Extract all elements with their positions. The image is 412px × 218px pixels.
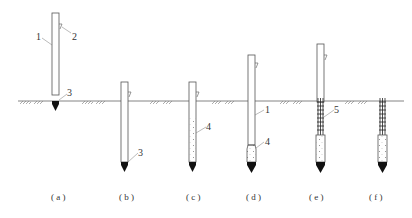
concrete-bulb bbox=[378, 135, 387, 162]
leader-3 bbox=[128, 153, 138, 162]
pile-tip bbox=[247, 162, 256, 173]
label-4: 4 bbox=[265, 136, 270, 147]
hook-icon bbox=[196, 92, 199, 97]
rebar-cage bbox=[317, 98, 324, 135]
hook-icon bbox=[324, 55, 327, 60]
leader-3 bbox=[59, 94, 67, 100]
casing bbox=[248, 55, 255, 145]
hook-icon bbox=[255, 63, 258, 68]
casing bbox=[317, 44, 324, 102]
stage-f bbox=[378, 98, 387, 173]
leader-2 bbox=[62, 27, 71, 33]
caption-d: ( d ) bbox=[246, 192, 261, 202]
pile-tip bbox=[316, 162, 325, 173]
concrete-bulb bbox=[316, 135, 325, 162]
pile-tip bbox=[378, 162, 387, 173]
pile-tip bbox=[121, 162, 128, 172]
label-3: 3 bbox=[138, 147, 143, 158]
leader-4 bbox=[256, 142, 264, 148]
hook-icon bbox=[59, 24, 62, 29]
label-4: 4 bbox=[206, 121, 211, 132]
stage-e: 5 bbox=[316, 44, 339, 173]
stage-c: 4 bbox=[189, 82, 211, 172]
concrete-bulb bbox=[247, 145, 256, 162]
stage-b: 3 bbox=[121, 82, 143, 172]
caption-a: ( a ) bbox=[51, 192, 66, 202]
label-2: 2 bbox=[72, 31, 77, 42]
pile-tip bbox=[189, 162, 196, 172]
hook-icon bbox=[128, 92, 131, 97]
leader-1 bbox=[255, 110, 264, 115]
pile-construction-diagram: 1 2 3 3 4 1 4 bbox=[0, 0, 412, 218]
leader-1 bbox=[42, 38, 52, 45]
casing bbox=[121, 82, 128, 162]
pile-tip bbox=[52, 101, 59, 111]
caption-f: ( f ) bbox=[369, 192, 383, 202]
caption-c: ( c ) bbox=[186, 192, 201, 202]
caption-e: ( e ) bbox=[309, 192, 324, 202]
leader-4 bbox=[196, 127, 206, 133]
label-1: 1 bbox=[265, 104, 270, 115]
rebar-cage bbox=[379, 98, 386, 135]
label-1: 1 bbox=[36, 31, 41, 42]
stage-a: 1 2 3 bbox=[36, 13, 77, 111]
label-5: 5 bbox=[334, 104, 339, 115]
caption-b: ( b ) bbox=[119, 192, 134, 202]
casing bbox=[52, 13, 59, 95]
label-3: 3 bbox=[67, 87, 72, 98]
stage-d: 1 4 bbox=[247, 55, 270, 173]
leader-5 bbox=[324, 110, 334, 117]
concrete-fill bbox=[189, 116, 196, 162]
